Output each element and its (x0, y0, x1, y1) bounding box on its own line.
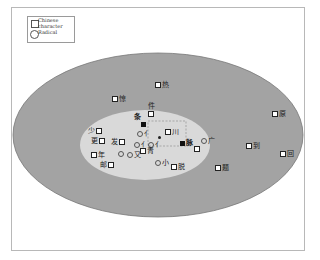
character-marker-icon (148, 111, 154, 117)
node-label: 邮 (100, 161, 107, 169)
character-marker-icon (280, 151, 286, 157)
character-marker-icon (246, 143, 252, 149)
character-marker-icon (91, 152, 97, 158)
node-label: 原 (279, 110, 286, 118)
character-marker-icon (272, 111, 278, 117)
radical-marker-icon (155, 160, 161, 166)
character-marker-icon (194, 146, 200, 152)
node-label: 亻 (155, 141, 162, 149)
character-marker-icon (215, 165, 221, 171)
node-label: 热 (162, 81, 169, 89)
node-label: 到 (253, 142, 260, 150)
dot-marker-icon (158, 136, 161, 139)
radical-marker-icon (201, 138, 207, 144)
node-label: 小 (162, 159, 169, 167)
character-marker-icon (108, 162, 114, 168)
node-label: 广 (208, 137, 215, 145)
node-label: 青 (147, 147, 154, 155)
radical-marker-icon (127, 152, 133, 158)
node-label: 惊 (119, 95, 126, 103)
selected-character-marker-icon (180, 141, 185, 146)
node-label: 脱 (178, 163, 185, 171)
node-label: 更 (91, 137, 98, 145)
node-label: 题 (222, 164, 229, 172)
node-label: 脉 (186, 139, 193, 147)
node-label: 年 (98, 151, 105, 159)
node-label: 条 (134, 113, 141, 121)
node-label: 回 (287, 150, 294, 158)
selected-character-marker-icon (141, 122, 146, 127)
legend: Chinese character Radical (27, 16, 75, 43)
radical-marker-icon (137, 131, 143, 137)
character-marker-icon (140, 148, 146, 154)
node-label: 川 (172, 128, 179, 136)
character-marker-icon (96, 128, 102, 134)
character-marker-icon (119, 139, 125, 145)
node-label: 少 (88, 127, 95, 135)
character-marker-icon (112, 96, 118, 102)
node-label: 件 (148, 102, 155, 110)
radical-marker-icon (118, 151, 124, 157)
legend-circle-label: Radical (38, 30, 57, 36)
character-marker-icon (171, 164, 177, 170)
character-marker-icon (155, 82, 161, 88)
node-label: 亻 (144, 130, 151, 138)
character-marker-icon (99, 138, 105, 144)
character-marker-icon (165, 129, 171, 135)
node-label: 发 (111, 138, 118, 146)
